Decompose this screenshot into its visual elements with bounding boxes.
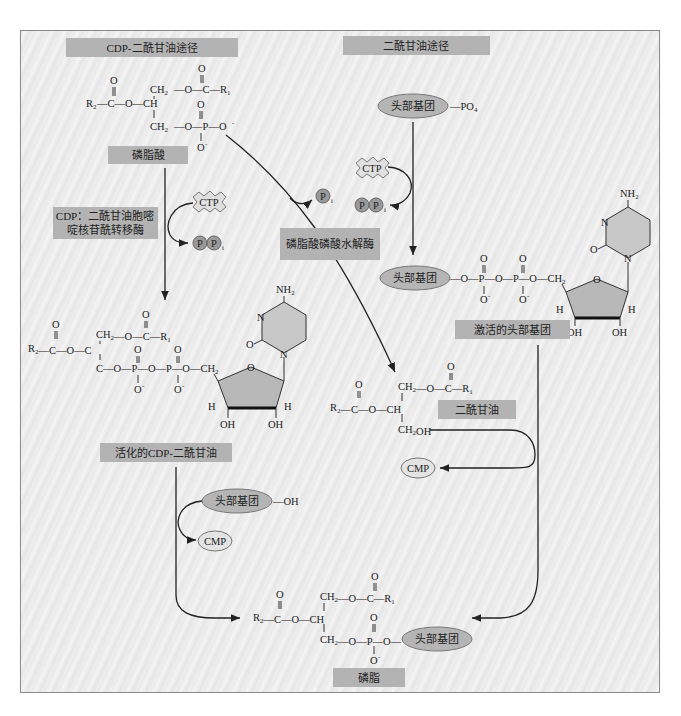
ctp-star-right: CTP [356, 157, 389, 178]
svg-text:O: O [519, 294, 527, 305]
phospholipid-structure: O CH2—O—C—R1 O R2—C—O—CH CH2—O—P—O— O O-… [253, 571, 472, 666]
svg-text:R2—C—O—C: R2—C—O—C [28, 343, 92, 356]
svg-text:N: N [601, 217, 609, 228]
svg-text:-: - [488, 292, 491, 300]
title-dag-pathway: 二酰甘油途径 [343, 36, 490, 55]
svg-text:-: - [142, 382, 145, 390]
svg-text:NH2: NH2 [276, 284, 295, 297]
svg-text:O: O [447, 361, 455, 372]
arrow-ctp-to-ppi-right [388, 167, 411, 205]
arrow-ctp-to-ppi-left [168, 203, 193, 243]
svg-text:H: H [208, 401, 216, 412]
svg-text:二酰甘油: 二酰甘油 [455, 403, 499, 416]
svg-text:O: O [590, 244, 598, 255]
svg-text:头部基团: 头部基团 [415, 632, 459, 645]
svg-text:CH2: CH2 [150, 121, 169, 134]
svg-text:—PO4: —PO4 [449, 101, 478, 114]
svg-text:O: O [142, 309, 150, 320]
svg-text:磷脂酸磷酸水解酶: 磷脂酸磷酸水解酶 [286, 237, 374, 250]
svg-text:O: O [276, 589, 284, 600]
svg-text:OH: OH [612, 327, 628, 338]
svg-text:OH: OH [220, 419, 236, 430]
svg-text:O: O [593, 274, 601, 285]
arrow-pi-release [290, 198, 312, 204]
svg-text:CH2: CH2 [150, 84, 169, 97]
label-enzyme-cdp-dag-synthase: CDP：二酰甘油胞嘧 啶核苷酰转移酶 [53, 207, 158, 239]
svg-text:O: O [174, 344, 182, 355]
svg-text:头部基团: 头部基团 [391, 99, 435, 112]
label-activated-cdp-dag: 活化的CDP-二酰甘油 [100, 443, 232, 462]
arrow-activated-head-to-phospholipid [472, 345, 538, 618]
svg-text:啶核苷酰转移酶: 啶核苷酰转移酶 [67, 223, 144, 236]
label-diacylglycerol: 二酰甘油 [438, 400, 516, 419]
svg-text:O: O [134, 344, 142, 355]
svg-text:磷脂: 磷脂 [358, 671, 380, 684]
ppi-right: P P i [355, 198, 386, 214]
svg-text:—OH: —OH [272, 496, 299, 507]
svg-text:-: - [527, 292, 530, 300]
svg-text:i: i [222, 244, 224, 252]
head-group-phosphate: 头部基团 —PO4 [378, 94, 478, 118]
svg-text:激活的头部基团: 激活的头部基团 [474, 323, 551, 336]
svg-text:N: N [257, 312, 265, 323]
ctp-star-left: CTP [193, 191, 226, 212]
head-group-alcohol: 头部基团 —OH [202, 489, 299, 513]
svg-text:头部基团: 头部基团 [393, 271, 437, 284]
svg-text:N: N [280, 349, 288, 360]
svg-text:i: i [331, 197, 333, 205]
svg-text:O: O [246, 339, 254, 350]
svg-text:H: H [556, 304, 564, 315]
svg-text:O: O [174, 384, 182, 395]
ppi-left: P P i [193, 236, 224, 252]
svg-text:OH: OH [268, 419, 284, 430]
cdp-diacylglycerol-structure: O CH2—O—C—R1 O R2—C—O—C C—O—P—O—P—O—CH2 … [28, 284, 306, 430]
cmp-right: CMP [401, 458, 435, 478]
svg-text:H: H [628, 304, 636, 315]
activated-head-group-structure: 头部基团 —O—P—O—P—O—CH2 O O O- O- O H H OH O… [380, 188, 650, 338]
cmp-left: CMP [198, 531, 232, 551]
svg-text:C—O—P—O—P—O—CH2: C—O—P—O—P—O—CH2 [96, 363, 219, 376]
svg-text:P: P [359, 200, 365, 211]
svg-text:i: i [384, 206, 386, 214]
svg-text:CTP: CTP [199, 197, 218, 208]
svg-text:CTP: CTP [362, 163, 381, 174]
svg-text:O: O [519, 253, 527, 264]
svg-text:CDP-二酰甘油途径: CDP-二酰甘油途径 [106, 41, 197, 54]
svg-text:P: P [320, 191, 326, 202]
title-cdp-dag-pathway: CDP-二酰甘油途径 [66, 38, 238, 57]
svg-text:CH2—O—C—R1: CH2—O—C—R1 [398, 381, 473, 396]
svg-text:P: P [211, 238, 217, 249]
svg-text:O: O [370, 655, 378, 666]
svg-text:O: O [134, 384, 142, 395]
svg-text:磷脂酸: 磷脂酸 [132, 148, 165, 161]
pi-release: P i [316, 189, 333, 205]
svg-text:O: O [197, 99, 205, 110]
svg-text:CMP: CMP [407, 463, 429, 474]
label-phosphatidic-acid: 磷脂酸 [108, 146, 188, 164]
svg-text:P: P [197, 238, 203, 249]
svg-text:-: - [205, 140, 208, 148]
label-phospholipid: 磷脂 [333, 668, 405, 687]
svg-text:O: O [52, 319, 60, 330]
diacylglycerol-structure: O CH2—O—C—R1 O R2—C—O—CH CH2OH [330, 361, 473, 437]
svg-text:NH2: NH2 [620, 188, 639, 201]
svg-text:—O—P—O: —O—P—O [173, 121, 227, 132]
svg-text:P: P [373, 200, 379, 211]
svg-text:CDP：二酰甘油胞嘧: CDP：二酰甘油胞嘧 [56, 209, 154, 222]
svg-text:-: - [378, 653, 381, 661]
svg-text:-: - [232, 119, 235, 127]
svg-text:头部基团: 头部基团 [215, 494, 259, 507]
svg-text:CH2—O—C—R1: CH2—O—C—R1 [96, 329, 171, 344]
label-enzyme-phosphatase: 磷脂酸磷酸水解酶 [280, 228, 380, 260]
svg-text:O: O [247, 362, 255, 373]
svg-text:O: O [371, 571, 379, 582]
phosphatidic-acid-structure: O CH2 —O—C—R1 O R2 —C—O—CH CH2 —O—P—O - … [86, 63, 235, 153]
svg-text:二酰甘油途径: 二酰甘油途径 [383, 39, 449, 52]
svg-text:H: H [284, 401, 292, 412]
svg-text:R2—C—O—CH: R2—C—O—CH [330, 402, 402, 415]
svg-text:CH2—O—P—O—: CH2—O—P—O— [320, 634, 402, 647]
svg-text:N: N [624, 253, 632, 264]
arrow-head-to-cmp-left [178, 501, 202, 540]
svg-text:—C—O—CH: —C—O—CH [96, 98, 158, 109]
svg-text:活化的CDP-二酰甘油: 活化的CDP-二酰甘油 [115, 446, 217, 459]
